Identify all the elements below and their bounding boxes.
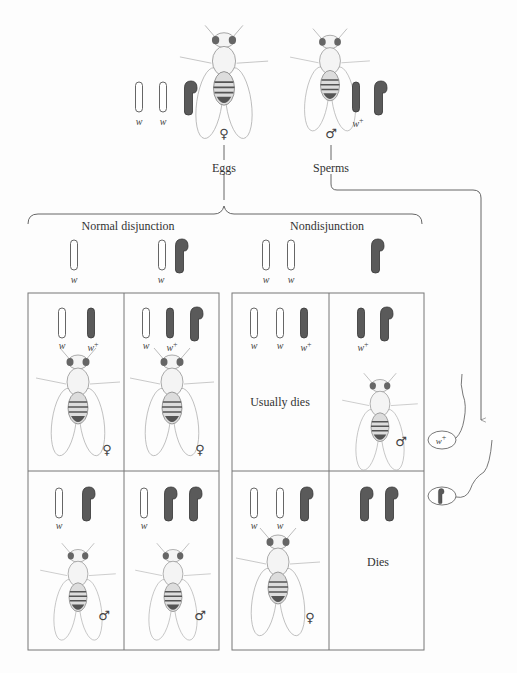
allele-label: w+ (357, 340, 368, 353)
sperms-label: Sperms (313, 161, 349, 176)
male-symbol: ♂ (194, 608, 206, 623)
allele-label: w (56, 520, 63, 531)
allele-label: w (59, 340, 66, 351)
offspring-fly-icon (40, 543, 116, 641)
offspring-fly-icon (130, 348, 214, 457)
offspring-fly-icon (36, 348, 120, 457)
eggs-label: Eggs (212, 161, 236, 176)
normal-disjunction-label: Normal disjunction (82, 219, 175, 234)
allele-label: w+ (352, 116, 363, 129)
allele-label: w+ (300, 340, 311, 353)
female-parent (136, 25, 269, 140)
allele-label: w (277, 340, 284, 351)
allele-label: w+ (87, 340, 98, 353)
nondisjunction-label: Nondisjunction (290, 219, 364, 234)
sperm-arrow (331, 174, 481, 420)
female-symbol: ♀ (102, 442, 112, 457)
x-chromosome-icon (160, 82, 167, 112)
nondisjunction-diagram (0, 0, 517, 673)
allele-label: w+ (166, 340, 177, 353)
x-chromosome-icon (136, 82, 143, 112)
allele-label: w (143, 340, 150, 351)
usually-dies-label: Usually dies (250, 395, 310, 410)
allele-label: w (141, 520, 148, 531)
female-symbol: ♀ (219, 126, 229, 141)
allele-label: w (136, 116, 143, 127)
sperm-y-icon (428, 440, 492, 505)
egg-types (71, 239, 385, 273)
offspring-fly-icon (135, 543, 211, 641)
allele-label: w (160, 116, 167, 127)
male-symbol: ♂ (395, 434, 407, 449)
allele-label: w (158, 274, 165, 285)
sperm-allele-label: w+ (436, 433, 447, 446)
dies-label: Dies (367, 555, 389, 570)
y-chromosome-icon (375, 81, 388, 115)
allele-label: w (251, 520, 258, 531)
allele-label: w (288, 274, 295, 285)
allele-label: w (277, 520, 284, 531)
allele-label: w (263, 274, 270, 285)
y-chromosome-icon (185, 81, 198, 115)
male-symbol: ♂ (98, 608, 110, 623)
allele-label: w (251, 340, 258, 351)
allele-label: w (71, 274, 78, 285)
female-symbol: ♀ (195, 442, 205, 457)
male-symbol: ♂ (325, 126, 337, 141)
offspring-fly-icon (342, 373, 418, 471)
x-chromosome-wplus-icon (353, 82, 360, 112)
male-parent (290, 29, 387, 133)
female-symbol: ♀ (305, 610, 315, 625)
